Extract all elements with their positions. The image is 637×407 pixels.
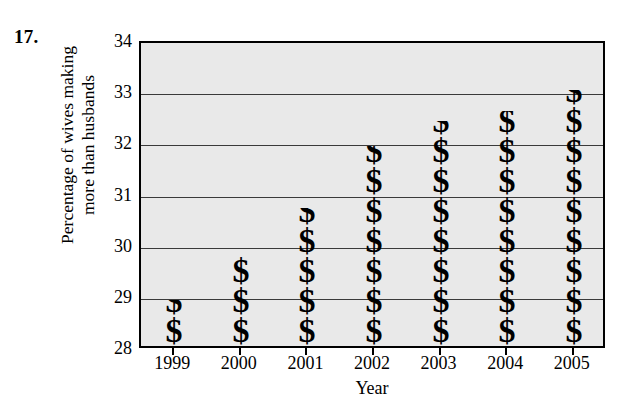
svg-text:$: $ <box>366 286 383 316</box>
bar-2004: $$$$$$$$ <box>490 111 524 346</box>
svg-text:$: $ <box>366 166 383 196</box>
svg-text:$: $ <box>366 226 383 256</box>
svg-text:$: $ <box>299 286 316 316</box>
bar-2001: $$$$$ <box>290 208 324 346</box>
dollar-sign-pictogram: $ <box>424 136 458 166</box>
svg-text:$: $ <box>232 316 249 346</box>
dollar-sign-pictogram: $ <box>357 166 391 196</box>
bar-1999: $$ <box>157 300 191 346</box>
dollar-sign-pictogram: $ <box>357 286 391 316</box>
dollar-sign-pictogram: $ <box>557 106 591 136</box>
y-axis-title-line-1: Percentage of wives making <box>57 46 78 244</box>
svg-text:$: $ <box>565 226 582 256</box>
dollar-sign-pictogram: $ <box>424 121 458 136</box>
dollar-sign-pictogram: $ <box>557 286 591 316</box>
svg-text:$: $ <box>299 226 316 256</box>
svg-text:$: $ <box>432 166 449 196</box>
svg-text:$: $ <box>499 286 516 316</box>
svg-text:$: $ <box>432 256 449 286</box>
x-axis-tick-label: 1999 <box>142 352 202 375</box>
y-axis-tick-label: 31 <box>96 186 132 204</box>
dollar-sign-pictogram: $ <box>357 146 391 166</box>
x-axis-tick-label: 2002 <box>342 352 402 375</box>
dollar-sign-pictogram: $ <box>424 286 458 316</box>
y-axis-tick-label: 34 <box>96 32 132 50</box>
dollar-sign-pictogram: $ <box>290 226 324 256</box>
svg-text:$: $ <box>565 316 582 346</box>
svg-text:$: $ <box>499 111 516 136</box>
svg-text:$: $ <box>565 286 582 316</box>
svg-text:$: $ <box>499 196 516 226</box>
svg-text:$: $ <box>565 166 582 196</box>
dollar-sign-pictogram: $ <box>424 166 458 196</box>
dollar-sign-pictogram: $ <box>490 256 524 286</box>
svg-text:$: $ <box>499 256 516 286</box>
svg-text:$: $ <box>565 106 582 136</box>
svg-text:$: $ <box>565 136 582 166</box>
dollar-sign-pictogram: $ <box>490 286 524 316</box>
bar-2003: $$$$$$$$ <box>424 121 458 346</box>
y-axis-tick-labels: 28293031323334 <box>96 41 132 348</box>
x-axis-tick-label: 2003 <box>409 352 469 375</box>
x-axis-tick-label: 2005 <box>542 352 602 375</box>
y-axis-tick-label: 30 <box>96 237 132 255</box>
svg-text:$: $ <box>565 90 582 106</box>
dollar-sign-pictogram: $ <box>357 256 391 286</box>
svg-text:$: $ <box>366 256 383 286</box>
dollar-sign-pictogram: $ <box>424 256 458 286</box>
bar-2002: $$$$$$$ <box>357 146 391 346</box>
svg-text:$: $ <box>565 256 582 286</box>
dollar-sign-pictogram: $ <box>490 111 524 136</box>
svg-text:$: $ <box>499 316 516 346</box>
svg-text:$: $ <box>432 316 449 346</box>
dollar-sign-pictogram: $ <box>357 226 391 256</box>
svg-text:$: $ <box>499 226 516 256</box>
dollar-sign-pictogram: $ <box>224 256 258 286</box>
dollar-sign-pictogram: $ <box>424 316 458 346</box>
svg-text:$: $ <box>232 286 249 316</box>
y-axis-tick-label: 29 <box>96 288 132 306</box>
dollar-sign-pictogram: $ <box>224 286 258 316</box>
svg-text:$: $ <box>565 196 582 226</box>
bar-2000: $$$ <box>224 249 258 346</box>
dollar-sign-pictogram: $ <box>490 316 524 346</box>
dollar-sign-pictogram: $ <box>490 226 524 256</box>
dollar-sign-pictogram: $ <box>490 166 524 196</box>
dollar-sign-pictogram: $ <box>557 136 591 166</box>
y-axis-tick-label: 28 <box>96 339 132 357</box>
svg-text:$: $ <box>499 136 516 166</box>
svg-text:$: $ <box>432 121 449 136</box>
svg-text:$: $ <box>432 196 449 226</box>
svg-text:$: $ <box>299 256 316 286</box>
dollar-sign-pictogram: $ <box>557 256 591 286</box>
x-axis-title: Year <box>139 378 605 399</box>
x-axis-tick-label: 2000 <box>209 352 269 375</box>
dollar-sign-pictogram: $ <box>157 300 191 316</box>
dollar-sign-pictogram: $ <box>290 256 324 286</box>
problem-number: 17. <box>14 26 38 48</box>
dollar-sign-pictogram: $ <box>424 196 458 226</box>
dollar-sign-pictogram: $ <box>224 316 258 346</box>
svg-text:$: $ <box>299 208 316 226</box>
svg-text:$: $ <box>499 166 516 196</box>
dollar-sign-pictogram: $ <box>290 286 324 316</box>
x-axis-tick-label: 2001 <box>275 352 335 375</box>
svg-text:$: $ <box>432 286 449 316</box>
svg-text:$: $ <box>299 316 316 346</box>
svg-text:$: $ <box>366 316 383 346</box>
x-axis-tick-labels: 1999200020012002200320042005 <box>139 352 605 376</box>
dollar-sign-pictogram: $ <box>557 226 591 256</box>
dollar-sign-pictogram: $ <box>557 196 591 226</box>
dollar-sign-pictogram: $ <box>557 90 591 106</box>
svg-text:$: $ <box>232 256 249 286</box>
svg-text:$: $ <box>166 316 183 346</box>
svg-text:$: $ <box>432 226 449 256</box>
svg-text:$: $ <box>366 196 383 226</box>
y-axis-tick-label: 33 <box>96 83 132 101</box>
dollar-sign-pictogram: $ <box>557 166 591 196</box>
svg-text:$: $ <box>432 136 449 166</box>
bar-2005: $$$$$$$$$ <box>557 90 591 346</box>
svg-text:$: $ <box>366 146 383 166</box>
bars-layer: $$$$$$$$$$$$$$$$$$$$$$$$$$$$$$$$$$$$$$$$… <box>141 43 603 346</box>
dollar-sign-pictogram: $ <box>357 196 391 226</box>
